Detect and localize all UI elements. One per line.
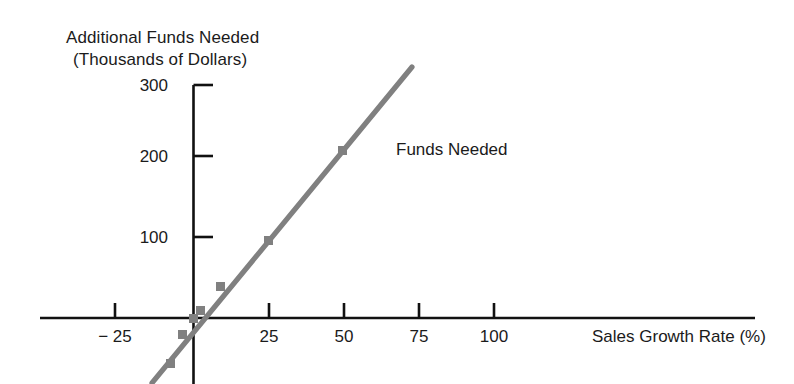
chart-plot-area [0,0,794,384]
series-funds-needed [152,67,412,383]
data-point-marker [178,330,187,339]
chart-container: Additional Funds Needed (Thousands of Do… [0,0,794,384]
data-point-marker [166,359,175,368]
axis-lines [40,85,755,384]
y-axis-ticks [194,85,214,237]
x-axis-ticks [115,303,494,318]
series-line-funds-needed [152,67,412,383]
data-point-marker [189,314,198,323]
data-point-marker [216,282,225,291]
data-point-marker [338,146,347,155]
data-point-marker [264,236,273,245]
data-point-marker [196,306,205,315]
